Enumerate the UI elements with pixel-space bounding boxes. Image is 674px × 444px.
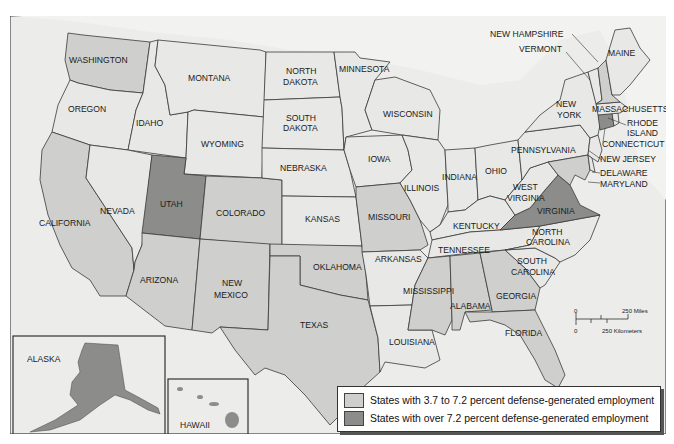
label-rhode-island-2: ISLAND — [627, 128, 658, 138]
state-north-dakota — [264, 52, 340, 100]
label-missouri: MISSOURI — [368, 212, 411, 222]
label-kansas: KANSAS — [305, 214, 340, 224]
legend-item-mid: States with 3.7 to 7.2 percent defense-g… — [344, 392, 654, 408]
label-wisconsin: WISCONSIN — [383, 109, 433, 119]
label-west-virginia-1: WEST — [513, 182, 539, 192]
label-pennsylvania: PENNSYLVANIA — [511, 145, 576, 155]
label-new-mexico-2: MEXICO — [214, 290, 248, 300]
label-north-carolina-1: NORTH — [532, 227, 562, 237]
legend-item-high: States with over 7.2 percent defense-gen… — [344, 410, 648, 426]
label-louisiana: LOUISIANA — [389, 337, 435, 347]
label-nevada: NEVADA — [100, 206, 135, 216]
label-alabama: ALABAMA — [450, 301, 491, 311]
label-mississippi: MISSISSIPPI — [403, 286, 454, 296]
legend-label-high: States with over 7.2 percent defense-gen… — [370, 413, 648, 424]
label-arizona: ARIZONA — [140, 275, 178, 285]
label-oklahoma: OKLAHOMA — [313, 262, 362, 272]
label-hawaii: HAWAII — [180, 420, 210, 430]
alaska-inset: ALASKA — [13, 336, 165, 434]
label-new-york-1: NEW — [556, 99, 577, 109]
label-new-york-2: YORK — [557, 110, 582, 120]
label-illinois: ILLINOIS — [404, 183, 440, 193]
label-nebraska: NEBRASKA — [280, 163, 327, 173]
label-washington: WASHINGTON — [69, 55, 128, 65]
label-south-dakota-1: SOUTH — [286, 113, 316, 123]
label-north-dakota-2: DAKOTA — [283, 77, 318, 87]
label-west-virginia-2: VIRGINIA — [507, 193, 545, 203]
label-california: CALIFORNIA — [39, 218, 91, 228]
scale-miles-label: 250 Miles — [622, 308, 648, 314]
label-massachusetts: MASSACHUSETTS — [592, 104, 666, 114]
us-defense-employment-map: ALASKA HAWAII 0 250 Miles 0 250 Kilomete… — [10, 16, 666, 434]
label-north-dakota-1: NORTH — [286, 66, 316, 76]
label-new-mexico-1: NEW — [222, 278, 243, 288]
label-texas: TEXAS — [300, 320, 328, 330]
map-legend: States with 3.7 to 7.2 percent defense-g… — [337, 386, 661, 432]
legend-label-mid: States with 3.7 to 7.2 percent defense-g… — [370, 395, 654, 406]
label-alaska: ALASKA — [27, 354, 61, 364]
label-oregon: OREGON — [68, 104, 106, 114]
label-iowa: IOWA — [368, 154, 391, 164]
label-kentucky: KENTUCKY — [453, 221, 500, 231]
label-montana: MONTANA — [188, 73, 231, 83]
label-north-carolina-2: CAROLINA — [526, 237, 570, 247]
label-south-dakota-2: DAKOTA — [283, 123, 318, 133]
hawaii-inset: HAWAII — [168, 379, 248, 434]
label-vermont: VERMONT — [519, 44, 563, 54]
label-virginia: VIRGINIA — [537, 206, 575, 216]
label-connecticut: CONNECTICUT — [602, 139, 665, 149]
label-indiana: INDIANA — [442, 172, 477, 182]
legend-swatch-mid — [344, 393, 364, 408]
label-ohio: OHIO — [485, 166, 507, 176]
label-delaware: DELAWARE — [600, 168, 648, 178]
label-georgia: GEORGIA — [496, 291, 536, 301]
label-new-hampshire: NEW HAMPSHIRE — [490, 29, 564, 39]
label-utah: UTAH — [160, 199, 183, 209]
legend-swatch-high — [344, 411, 364, 426]
label-wyoming: WYOMING — [201, 139, 244, 149]
label-colorado: COLORADO — [216, 208, 265, 218]
scale-km-label: 250 Kilometers — [602, 328, 642, 334]
label-arkansas: ARKANSAS — [375, 254, 422, 264]
label-south-carolina-2: CAROLINA — [511, 267, 555, 277]
label-idaho: IDAHO — [136, 118, 164, 128]
label-tennessee: TENNESSEE — [438, 245, 490, 255]
label-maine: MAINE — [608, 48, 635, 58]
label-florida: FLORIDA — [505, 328, 543, 338]
label-new-jersey: NEW JERSEY — [600, 154, 656, 164]
label-maryland: MARYLAND — [600, 179, 648, 189]
label-minnesota: MINNESOTA — [339, 64, 390, 74]
label-rhode-island-1: RHODE — [627, 118, 658, 128]
label-south-carolina-1: SOUTH — [517, 256, 547, 266]
